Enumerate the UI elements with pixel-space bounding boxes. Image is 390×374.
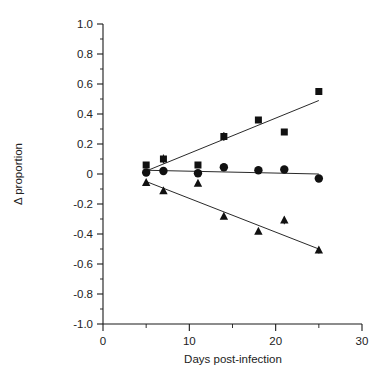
x-tick-label: 20 [269,335,282,347]
trendline-circles [146,170,319,174]
marker-circle [254,166,262,174]
marker-circle [194,169,202,177]
y-tick-label: 0.6 [77,78,93,90]
trendline-group [146,101,319,250]
marker-circle [315,174,323,182]
trendline-triangles [146,182,319,250]
y-tick-label: -0.2 [73,198,93,210]
marker-circle [280,165,288,173]
marker-circle [142,168,150,176]
x-axis: 0102030 [100,324,369,347]
marker-square [220,133,227,140]
y-tick-label: -0.4 [73,228,93,240]
marker-square [315,88,322,95]
y-axis-title: Δ proportion [12,143,24,205]
x-tick-group: 0102030 [100,324,369,347]
marker-triangle [280,216,288,224]
marker-square [255,117,262,124]
chart-figure: 1.00.80.60.40.20-0.2-0.4-0.6-0.8-1.0 010… [0,0,390,374]
marker-circle [220,163,228,171]
y-tick-group: 1.00.80.60.40.20-0.2-0.4-0.6-0.8-1.0 [73,18,103,330]
y-tick-label: 0 [87,168,93,180]
y-tick-label: 1.0 [77,18,93,30]
marker-circle [159,167,167,175]
trendline-squares [146,101,319,172]
marker-square [281,129,288,136]
x-tick-label: 30 [356,335,369,347]
marker-square [194,162,201,169]
y-tick-label: -1.0 [73,318,93,330]
x-tick-label: 0 [100,335,106,347]
scatter-plot-canvas: 1.00.80.60.40.20-0.2-0.4-0.6-0.8-1.0 010… [0,0,390,374]
marker-triangle [142,178,150,186]
marker-triangle [254,227,262,235]
y-tick-label: 0.2 [77,138,93,150]
marker-triangle [194,179,202,187]
x-tick-label: 10 [183,335,196,347]
marker-square [143,162,150,169]
y-tick-label: -0.6 [73,258,93,270]
y-tick-label: 0.4 [77,108,94,120]
marker-triangle [315,246,323,254]
y-tick-label: 0.8 [77,48,93,60]
y-tick-label: -0.8 [73,288,93,300]
marker-square [160,156,167,163]
x-axis-title: Days post-infection [184,353,282,365]
y-axis: 1.00.80.60.40.20-0.2-0.4-0.6-0.8-1.0 [73,18,103,330]
